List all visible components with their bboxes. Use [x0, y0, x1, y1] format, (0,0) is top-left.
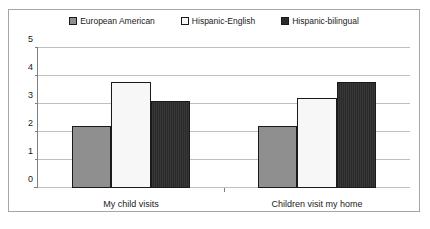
y-axis-tick-mark	[35, 47, 38, 48]
bar-0-1[interactable]	[111, 82, 150, 188]
y-axis-tick-label: 5	[28, 35, 33, 44]
y-axis-tick-mark	[35, 187, 38, 188]
legend-label-european-american: European American	[80, 17, 155, 26]
y-axis-tick-mark	[35, 75, 38, 76]
y-axis-tick-label: 3	[28, 91, 33, 100]
y-axis-tick-label: 2	[28, 119, 33, 128]
category-label: My child visits	[103, 200, 159, 209]
bar-1-1[interactable]	[297, 98, 336, 188]
legend-label-hispanic-bilingual: Hispanic-bilingual	[292, 17, 359, 26]
y-axis-line	[37, 48, 38, 188]
y-axis-tick-mark	[35, 159, 38, 160]
bar-group	[72, 48, 189, 188]
chart-legend: European American Hispanic-English Hispa…	[9, 17, 419, 26]
y-axis-tick-label: 0	[28, 175, 33, 184]
bar-0-0[interactable]	[72, 126, 111, 188]
category-label: Children visit my home	[271, 200, 362, 209]
y-axis-tick-label: 4	[28, 63, 33, 72]
x-axis-tick-mark	[224, 188, 225, 192]
legend-swatch-european-american	[69, 17, 77, 25]
plot-area: 012345 My child visitsChildren visit my …	[38, 48, 410, 188]
bar-0-2[interactable]	[151, 101, 190, 188]
legend-item-hispanic-bilingual: Hispanic-bilingual	[281, 17, 359, 26]
legend-item-european-american: European American	[69, 17, 155, 26]
bar-group	[258, 48, 375, 188]
legend-swatch-hispanic-bilingual	[281, 17, 289, 25]
chart-frame: European American Hispanic-English Hispa…	[8, 9, 420, 212]
legend-item-hispanic-english: Hispanic-English	[181, 17, 255, 26]
y-axis-tick-mark	[35, 131, 38, 132]
bar-1-0[interactable]	[258, 126, 297, 188]
legend-label-hispanic-english: Hispanic-English	[192, 17, 255, 26]
legend-swatch-hispanic-english	[181, 17, 189, 25]
bar-1-2[interactable]	[337, 82, 376, 188]
y-axis-tick-mark	[35, 103, 38, 104]
y-axis-tick-label: 1	[28, 147, 33, 156]
